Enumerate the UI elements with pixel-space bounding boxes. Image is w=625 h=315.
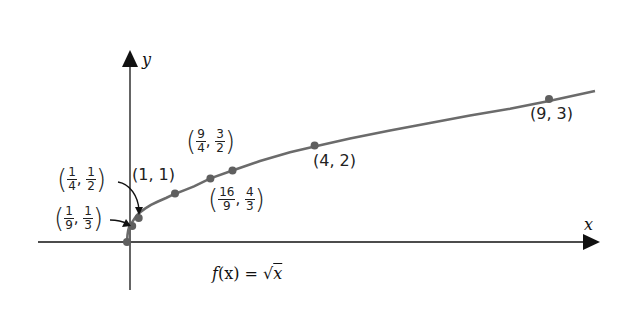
point-0-0 [123, 238, 131, 246]
point-label-4-2: (4, 2) [313, 153, 356, 169]
point-1-1 [171, 190, 179, 198]
x-axis-arrow-icon [583, 234, 600, 250]
y-axis-label: y [142, 50, 151, 69]
point-9-4 [229, 167, 237, 175]
y-axis-arrow-icon [122, 50, 138, 67]
point-16-9 [206, 174, 214, 182]
point-label-1-1: (1, 1) [132, 167, 175, 183]
function-label: f(x) = √x [212, 264, 282, 283]
sqrt-curve [127, 91, 595, 242]
point-label-9-4: (94, 32) [186, 128, 235, 154]
points [123, 95, 553, 246]
point-1-4 [135, 214, 143, 222]
leader-arrow-quarter [118, 182, 139, 210]
point-label-16-9: (169, 43) [208, 186, 265, 212]
point-label-9-3: (9, 3) [530, 106, 573, 122]
point-label-ninth: (19, 13) [54, 205, 103, 231]
point-9-3 [545, 95, 553, 103]
point-4-2 [311, 142, 319, 150]
x-axis-label: x [584, 215, 593, 234]
point-label-quarter: (14, 12) [57, 166, 106, 192]
